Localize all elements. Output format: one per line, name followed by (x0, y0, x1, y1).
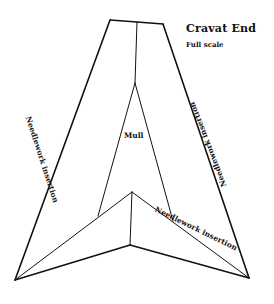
outer-left-edge (15, 20, 110, 280)
diagram-subtitle: Full scale (186, 40, 224, 49)
mull-right-line (135, 83, 173, 221)
inner-center-line (130, 192, 132, 245)
diagram-title: Cravat End (186, 22, 256, 35)
inner-left-line (15, 192, 132, 280)
mull-label: Mull (124, 131, 143, 140)
center-seam (135, 22, 137, 83)
mull-left-line (98, 83, 135, 216)
bottom-left-edge (15, 245, 130, 280)
cravat-end-diagram: Cravat End Full scale Needlework inserti… (0, 0, 274, 304)
